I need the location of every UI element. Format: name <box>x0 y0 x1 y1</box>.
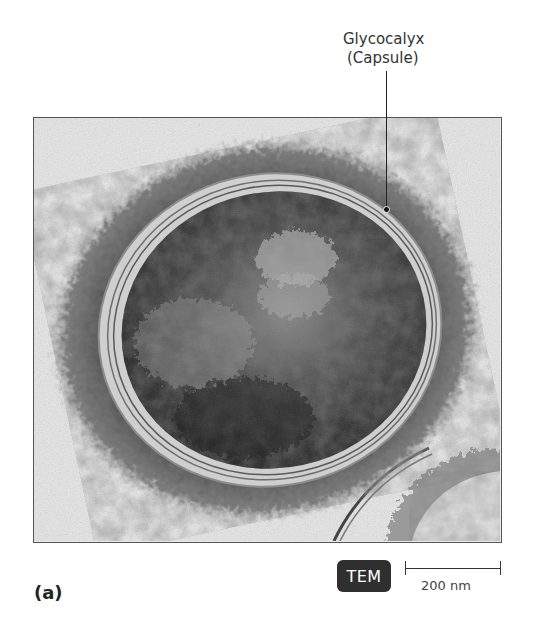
scale-bar <box>405 561 501 575</box>
scale-bar-line <box>405 568 501 569</box>
callout-line-2: (Capsule) <box>343 49 443 68</box>
scale-bar-label: 200 nm <box>421 578 471 593</box>
micrograph-image <box>34 118 500 541</box>
scale-bar-right-tick <box>500 561 501 575</box>
callout-line-1: Glycocalyx <box>343 30 443 49</box>
tem-micrograph <box>33 117 502 543</box>
callout-pointer-dot <box>383 206 390 213</box>
tem-badge: TEM <box>337 560 391 592</box>
glycocalyx-callout-label: Glycocalyx (Capsule) <box>343 30 443 68</box>
panel-label: (a) <box>34 582 63 603</box>
callout-leader-line <box>386 71 387 208</box>
scale-bar-left-tick <box>405 561 406 575</box>
